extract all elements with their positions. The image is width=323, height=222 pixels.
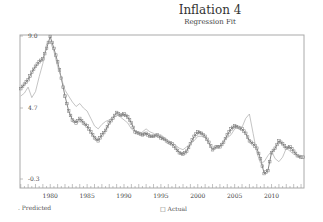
y-tick-label: 4.7 xyxy=(28,104,38,111)
x-tick-label: 2005 xyxy=(227,192,242,199)
x-tick-label: 2000 xyxy=(190,192,205,199)
x-tick-label: 1990 xyxy=(116,192,131,199)
predicted-line xyxy=(21,41,301,163)
legend-actual: □ Actual xyxy=(160,205,187,212)
actual-line xyxy=(21,37,301,174)
y-tick-label: 9.0 xyxy=(28,32,38,39)
x-tick-label: 1980 xyxy=(43,192,58,199)
legend-predicted: . Predicted xyxy=(18,204,51,211)
chart-plot-area: 19801985199019952000200520109.04.7-0.3 xyxy=(0,0,323,222)
x-tick-label: 2010 xyxy=(264,192,279,199)
y-tick-label: -0.3 xyxy=(28,175,40,182)
legend-actual-marker-icon: □ xyxy=(160,205,168,212)
x-tick-label: 1985 xyxy=(79,192,94,199)
x-tick-label: 1995 xyxy=(153,192,168,199)
